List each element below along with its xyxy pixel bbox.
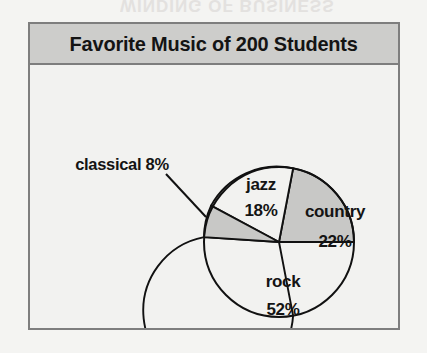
classical-leader-line — [166, 174, 206, 217]
pie-label-jazz: jazz — [245, 175, 276, 194]
pie-value-rock: 52% — [266, 300, 299, 319]
pie-chart-plot-area: classical 8% jazz 18% country 22% rock 5… — [30, 65, 398, 328]
page-title: Favorite Music of 200 Students — [70, 32, 358, 56]
chart-title-bar: Favorite Music of 200 Students — [30, 24, 398, 65]
pie-label-country: country — [305, 202, 366, 221]
scan-bleed-through-text: WINDING OF BUSINESS — [120, 0, 400, 15]
chart-frame: Favorite Music of 200 Students classical… — [28, 22, 400, 330]
pie-value-jazz: 18% — [244, 201, 277, 220]
pie-label-classical: classical 8% — [75, 155, 169, 173]
pie-chart-svg: classical 8% jazz 18% country 22% rock 5… — [30, 65, 398, 328]
pie-value-country: 22% — [318, 232, 351, 251]
pie-label-rock: rock — [266, 272, 302, 291]
